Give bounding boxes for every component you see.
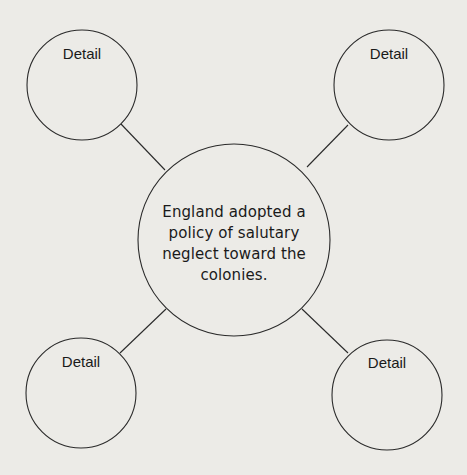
main-idea-line-4: colonies. [200,266,267,284]
main-idea-line-3: neglect toward the [162,245,306,263]
detail-node-top-right: Detail [334,30,444,140]
connector-bottom-right [302,309,348,353]
connector-top-left [121,124,165,170]
detail-node-top-left: Detail [27,30,137,140]
web-diagram: England adopted a policy of salutary neg… [0,0,467,475]
main-idea-node: England adopted a policy of salutary neg… [138,144,330,336]
detail-label-top-right: Detail [370,45,408,62]
main-idea-line-2: policy of salutary [169,224,300,242]
detail-label-top-left: Detail [63,45,101,62]
detail-label-bottom-left: Detail [62,353,100,370]
detail-node-bottom-right: Detail [332,340,442,450]
connector-top-right [307,125,348,167]
main-idea-line-1: England adopted a [162,203,305,221]
connector-bottom-left [120,309,166,353]
detail-node-bottom-left: Detail [26,338,136,448]
detail-label-bottom-right: Detail [368,354,406,371]
